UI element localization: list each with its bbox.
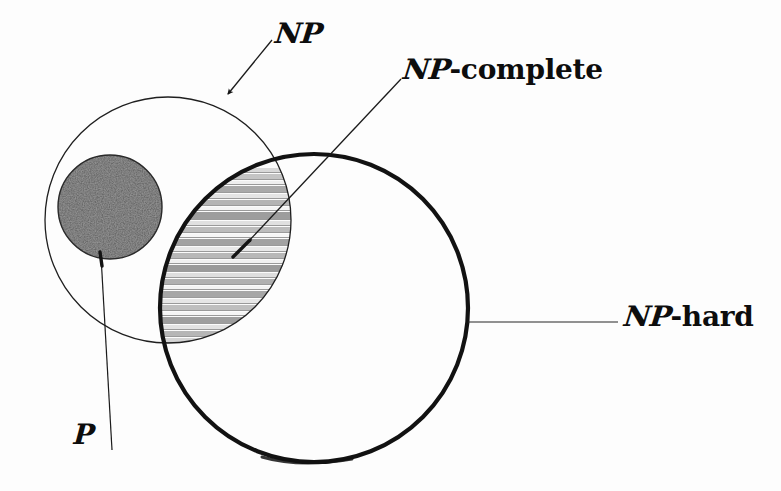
stripe-rule xyxy=(30,277,350,278)
stripe-band xyxy=(30,286,350,289)
stripe-band xyxy=(30,299,350,303)
label-p-script: P xyxy=(75,418,95,451)
stripe-band xyxy=(30,260,350,263)
np-leader-line xyxy=(228,40,272,94)
stripe-rule xyxy=(30,271,350,272)
label-np-complete: NP-complete xyxy=(404,56,603,84)
stripe-rule xyxy=(30,263,350,264)
stripe-rule xyxy=(30,297,350,298)
stripe-rule xyxy=(30,284,350,285)
stripe-rule xyxy=(30,329,350,330)
label-p: P xyxy=(75,421,95,449)
label-np-hard-roman: -hard xyxy=(671,300,754,333)
stripe-rule xyxy=(30,323,350,324)
label-np-script: NP xyxy=(276,17,322,50)
stripe-rule xyxy=(30,258,350,259)
stripe-band xyxy=(30,312,350,315)
label-np-hard-script: NP xyxy=(625,300,671,333)
label-np-complete-roman: -complete xyxy=(450,53,603,86)
label-np-hard: NP-hard xyxy=(625,303,754,331)
stripe-rule xyxy=(30,289,350,290)
stripe-band xyxy=(30,305,350,310)
complexity-venn-diagram: NP NP-complete NP-hard P xyxy=(0,0,781,491)
stripe-band xyxy=(30,273,350,277)
stripe-band xyxy=(30,331,350,336)
stripe-rule xyxy=(30,315,350,316)
stripe-band xyxy=(30,253,350,258)
p-region xyxy=(58,155,162,259)
stripe-rule xyxy=(30,336,350,337)
label-np: NP xyxy=(276,20,322,48)
stripe-band xyxy=(30,325,350,329)
p-leader-arrowhead xyxy=(100,252,102,266)
venn-diagram-canvas xyxy=(0,0,781,491)
label-np-complete-script: NP xyxy=(404,53,450,86)
stripe-band xyxy=(30,291,350,297)
p-leader-line xyxy=(101,256,112,450)
stripe-band xyxy=(30,317,350,323)
stripe-rule xyxy=(30,310,350,311)
stripe-rule xyxy=(30,342,350,343)
stripe-band xyxy=(30,265,350,271)
stripe-band xyxy=(30,279,350,284)
stripe-rule xyxy=(30,251,350,252)
